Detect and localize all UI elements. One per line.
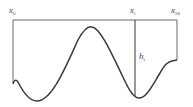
cross-section-diagram: x0 xi x20 hi [0, 0, 193, 107]
label-x20: x20 [170, 5, 181, 16]
label-hi: hi [139, 51, 146, 62]
profile-curve [13, 27, 177, 101]
label-xi: xi [129, 5, 136, 16]
label-x0: x0 [8, 5, 16, 16]
